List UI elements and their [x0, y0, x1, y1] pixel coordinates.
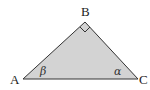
vertex-label-c: C: [139, 72, 148, 87]
vertex-label-b: B: [81, 4, 90, 19]
angle-label-beta: β: [39, 65, 46, 78]
vertex-label-a: A: [10, 72, 20, 87]
triangle-diagram: B A C β α: [0, 0, 150, 90]
angle-label-alpha: α: [114, 65, 122, 78]
